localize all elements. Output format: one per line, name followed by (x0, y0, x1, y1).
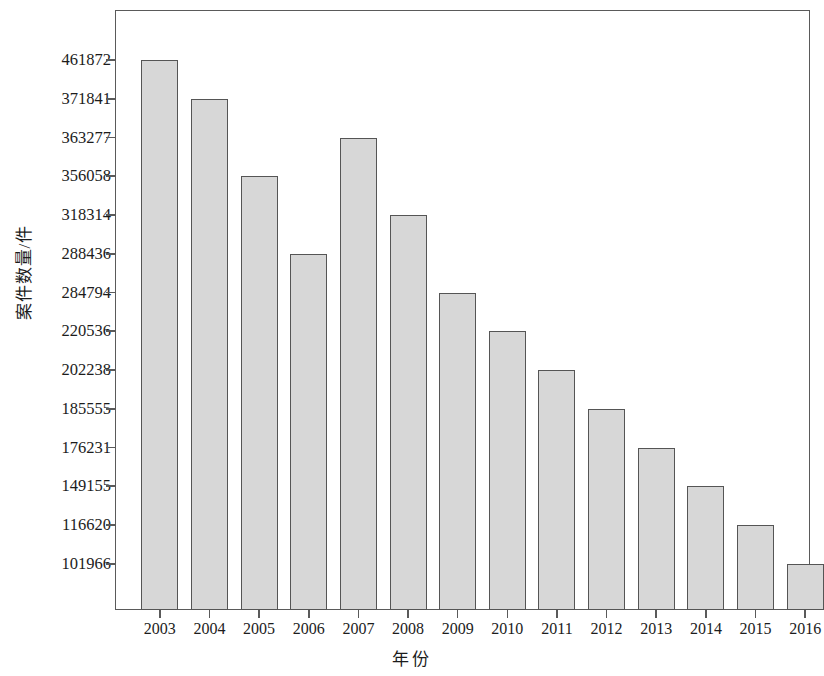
bar (390, 215, 427, 610)
bar (439, 293, 476, 611)
x-axis-tick-label: 2005 (243, 620, 275, 638)
x-axis-tick-label: 2006 (293, 620, 325, 638)
bar (588, 409, 625, 610)
x-axis-tick-label: 2014 (690, 620, 722, 638)
bar (290, 254, 327, 610)
y-axis-tick-mark (106, 175, 115, 177)
x-axis-title: 年份 (0, 645, 823, 670)
y-axis-title: 案件数量/件 (10, 163, 35, 383)
y-axis-tick-label: 284794 (62, 283, 112, 303)
y-axis-tick-label: 220536 (62, 321, 112, 341)
x-axis-tick-label: 2012 (591, 620, 623, 638)
bar (787, 564, 824, 610)
bar (191, 99, 228, 610)
y-axis-tick-mark (106, 253, 115, 255)
y-axis-tick-mark (106, 292, 115, 294)
y-axis-tick-label: 176231 (62, 438, 112, 458)
y-axis-tick-mark (106, 447, 115, 449)
x-axis-tick-mark (755, 610, 757, 618)
x-axis-tick-mark (705, 610, 707, 618)
y-axis-tick-label: 318314 (62, 205, 112, 225)
y-axis-tick-label: 149155 (62, 476, 112, 496)
x-axis-tick-label: 2013 (640, 620, 672, 638)
x-axis-tick-mark (407, 610, 409, 618)
x-axis-tick-label: 2010 (491, 620, 523, 638)
x-axis-tick-label: 2003 (144, 620, 176, 638)
bar (489, 331, 526, 610)
y-axis-tick-mark (106, 369, 115, 371)
bar (638, 448, 675, 611)
y-axis-tick-label: 185555 (62, 399, 112, 419)
x-axis-tick-mark (209, 610, 211, 618)
x-axis-tick-mark (507, 610, 509, 618)
y-axis-tick-mark (106, 137, 115, 139)
bar (538, 370, 575, 610)
x-axis-tick-label: 2016 (789, 620, 821, 638)
x-axis-tick-label: 2015 (740, 620, 772, 638)
x-axis-tick-label: 2007 (342, 620, 374, 638)
x-axis-tick-label: 2009 (442, 620, 474, 638)
x-axis-tick-mark (655, 610, 657, 618)
bar (687, 486, 724, 610)
y-axis-tick-label: 288436 (62, 244, 112, 264)
y-axis-tick-label: 116620 (62, 515, 111, 535)
x-axis-tick-mark (457, 610, 459, 618)
y-axis-tick-mark (106, 98, 115, 100)
y-axis-tick-mark (106, 408, 115, 410)
x-axis-tick-mark (556, 610, 558, 618)
y-axis-tick-label: 356058 (62, 166, 112, 186)
x-axis-tick-mark (358, 610, 360, 618)
y-axis-tick-mark (106, 214, 115, 216)
y-axis-tick-mark (106, 524, 115, 526)
x-axis-tick-mark (258, 610, 260, 618)
x-axis-tick-label: 2004 (193, 620, 225, 638)
y-axis-tick-mark (106, 563, 115, 565)
y-axis-tick-label: 363277 (62, 128, 112, 148)
x-axis-tick-mark (159, 610, 161, 618)
x-axis-tick-mark (804, 610, 806, 618)
x-axis-tick-label: 2011 (541, 620, 572, 638)
x-axis-tick-mark (308, 610, 310, 618)
y-axis-tick-mark (106, 330, 115, 332)
bar (340, 138, 377, 611)
y-axis-tick-label: 202238 (62, 360, 112, 380)
y-axis-tick-mark (106, 59, 115, 61)
y-axis-tick-label: 371841 (62, 89, 112, 109)
x-axis-tick-label: 2008 (392, 620, 424, 638)
bar (141, 60, 178, 610)
x-axis-tick-mark (606, 610, 608, 618)
y-axis-tick-label: 101966 (62, 554, 112, 574)
y-axis-tick-mark (106, 485, 115, 487)
y-axis-tick-label: 461872 (62, 50, 112, 70)
bar (241, 176, 278, 610)
bar (737, 525, 774, 610)
